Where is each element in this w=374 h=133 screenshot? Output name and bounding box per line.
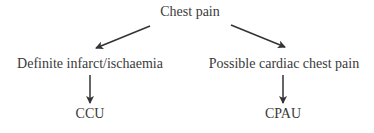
node-chest-pain: Chest pain — [160, 4, 220, 20]
arrow-root-to-left — [96, 26, 150, 48]
node-ccu: CCU — [76, 106, 105, 122]
node-possible-cardiac: Possible cardiac chest pain — [209, 56, 359, 72]
arrow-root-to-right — [231, 25, 285, 47]
node-definite-infarct: Definite infarct/ischaemia — [17, 56, 163, 72]
node-cpau: CPAU — [265, 106, 301, 122]
